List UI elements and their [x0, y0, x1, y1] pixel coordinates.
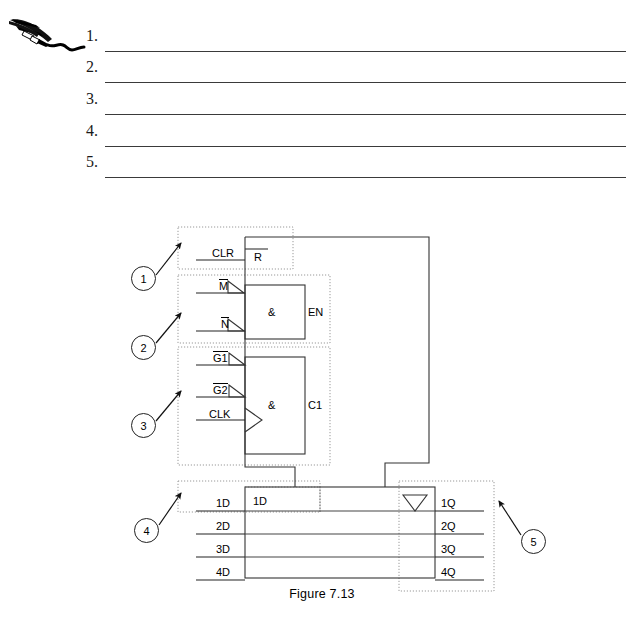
c1-output-label: C1 — [308, 399, 322, 411]
n-label: N — [221, 317, 229, 330]
q-output-label-1: 1Q — [441, 497, 456, 509]
q-output-label-3: 3Q — [441, 543, 456, 555]
q-output-label-4: 4Q — [441, 566, 456, 578]
clk-dynamic-triangle — [245, 408, 262, 432]
g1-label: G1 — [213, 351, 228, 364]
answer-rule[interactable] — [105, 146, 626, 147]
annotation-region-4 — [178, 481, 320, 512]
answer-row[interactable]: 4. — [86, 122, 626, 150]
g1-label-text: G1 — [213, 351, 228, 364]
figure-7-13: CLR R M N & EN G1 G2 CLK & C1 1D 1D 2D 3… — [0, 205, 644, 626]
q-output-label-2: 2Q — [441, 520, 456, 532]
callout-circle-5[interactable]: 5 — [521, 529, 546, 554]
g2-label: G2 — [213, 383, 228, 396]
answer-rule[interactable] — [105, 114, 626, 115]
m-label: M — [219, 279, 228, 292]
r-pin-label: R — [254, 251, 262, 263]
answer-number: 1. — [86, 27, 98, 45]
callout-circle-3[interactable]: 3 — [131, 413, 156, 438]
answer-row[interactable]: 3. — [86, 90, 626, 118]
answer-number: 5. — [86, 153, 98, 171]
control-block-outline — [245, 237, 429, 487]
answer-row[interactable]: 5. — [86, 153, 626, 181]
clk-label: CLK — [209, 408, 230, 420]
register-block-outline — [245, 487, 435, 578]
d-input-label-3: 3D — [216, 543, 230, 555]
callout-arrow-2 — [156, 313, 181, 343]
quill-pen-icon — [6, 14, 90, 56]
answer-row[interactable]: 2. — [86, 58, 626, 86]
callout-circle-2[interactable]: 2 — [131, 335, 156, 360]
figure-caption: Figure 7.13 — [0, 587, 644, 601]
answer-number: 3. — [86, 90, 98, 108]
callout-arrow-3 — [156, 391, 181, 421]
d-input-label-4: 4D — [216, 566, 230, 578]
answer-number: 2. — [86, 58, 98, 76]
annotation-region-1 — [178, 227, 293, 269]
n-label-text: N — [221, 317, 229, 330]
g2-label-text: G2 — [213, 383, 228, 396]
en-output-label: EN — [308, 306, 323, 318]
callout-circle-1[interactable]: 1 — [131, 266, 156, 291]
answer-lines-section: 1. 2. 3. 4. 5. — [0, 0, 644, 200]
g2-inverter-triangle — [229, 385, 245, 397]
m-label-text: M — [219, 279, 228, 292]
n-inverter-triangle — [228, 319, 244, 331]
callout-circle-4[interactable]: 4 — [134, 518, 159, 543]
g1-inverter-triangle — [229, 353, 245, 365]
clr-label: CLR — [212, 247, 234, 259]
register-first-cell-label: 1D — [253, 495, 267, 507]
d-input-label-2: 2D — [216, 520, 230, 532]
d-input-label-1: 1D — [216, 497, 230, 509]
answer-rule[interactable] — [105, 177, 626, 178]
c1-gate-symbol: & — [268, 399, 275, 411]
answer-row[interactable]: 1. — [86, 27, 626, 55]
register-cell-divider — [245, 511, 435, 557]
callout-arrow-1 — [156, 243, 181, 275]
answer-number: 4. — [86, 122, 98, 140]
dynamic-indicator-triangle — [403, 495, 427, 511]
answer-rule[interactable] — [105, 82, 626, 83]
callout-arrow-5 — [499, 501, 521, 535]
en-gate-symbol: & — [268, 306, 275, 318]
m-inverter-triangle — [228, 281, 244, 293]
answer-rule[interactable] — [105, 51, 626, 52]
logic-diagram — [0, 205, 644, 626]
